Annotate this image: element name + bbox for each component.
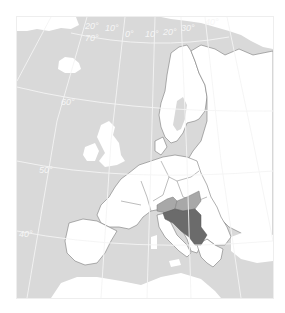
lon-label: 0° (125, 29, 134, 39)
map-frame: 20° 10° 0° 10° 20° 30° 40° 70° 60° 50° 4… (16, 16, 274, 299)
lon-label: 30° (181, 23, 195, 33)
europe-map: 20° 10° 0° 10° 20° 30° 40° 70° 60° 50° 4… (17, 17, 273, 298)
lat-label: 50° (39, 165, 53, 175)
lon-label: 40° (205, 17, 219, 27)
lon-label: 20° (162, 27, 177, 37)
lon-label: 20° (84, 21, 99, 31)
lat-label: 40° (19, 229, 33, 239)
lon-label: 10° (145, 29, 159, 39)
lat-label: 60° (61, 97, 75, 107)
sardinia (151, 235, 157, 249)
lat-label: 70° (85, 33, 99, 43)
lon-label: 10° (105, 23, 119, 33)
